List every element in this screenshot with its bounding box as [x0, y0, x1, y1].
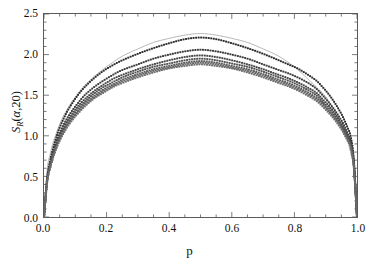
- y-axis-n: 20: [9, 95, 23, 108]
- plot-canvas: [44, 14, 357, 217]
- x-tick-label: 0.8: [275, 222, 315, 234]
- series-markers-7: [44, 63, 357, 216]
- y-tick-label: 0.0: [4, 212, 38, 224]
- x-tick-label: 0.4: [149, 222, 189, 234]
- axis-ticks: [44, 14, 357, 217]
- y-axis-symbol: S: [9, 127, 23, 133]
- plot-area: [43, 13, 358, 218]
- series-line-6: [44, 63, 357, 217]
- series-markers-1: [44, 37, 357, 217]
- y-axis-paren-open: (: [9, 117, 23, 121]
- y-axis-comma: ,: [9, 108, 23, 111]
- y-tick-label: 0.5: [4, 171, 38, 183]
- y-axis-subscript: R: [15, 122, 25, 127]
- series-markers-5: [44, 60, 357, 216]
- y-axis-paren-close: ): [9, 91, 23, 95]
- y-axis-alpha: α: [9, 111, 23, 118]
- chart-figure: 0.00.20.40.60.81.0 0.00.51.01.52.02.5 p …: [0, 0, 379, 266]
- series-line-7: [44, 64, 357, 217]
- series-line-2: [44, 50, 357, 217]
- y-axis-title: SR(α,20): [9, 57, 25, 167]
- y-tick-label: 2.5: [4, 7, 38, 19]
- series-line-4: [44, 59, 357, 217]
- x-tick-label: 1.0: [338, 222, 378, 234]
- x-tick-label: 0.6: [212, 222, 252, 234]
- series-markers-2: [44, 49, 357, 216]
- series-markers-4: [44, 58, 357, 217]
- x-tick-label: 0.2: [86, 222, 126, 234]
- x-axis-title: p: [0, 243, 379, 259]
